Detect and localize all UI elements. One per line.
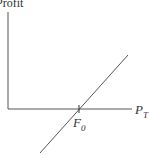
- profit-line: [40, 55, 128, 153]
- x-axis-label-main: P: [135, 102, 143, 117]
- x-axis-label: PT: [135, 102, 148, 120]
- intercept-label: F0: [73, 115, 85, 133]
- x-axis-label-sub: T: [143, 110, 148, 120]
- intercept-label-main: F: [73, 115, 81, 130]
- y-axis-label: Profit: [0, 0, 23, 11]
- intercept-label-sub: 0: [81, 123, 86, 133]
